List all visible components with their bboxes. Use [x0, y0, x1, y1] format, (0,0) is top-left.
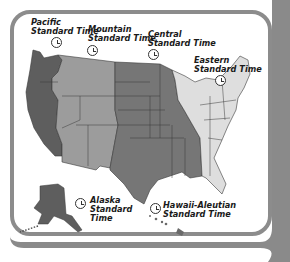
clock-icon-central [148, 49, 159, 60]
label-central: Central Standard Time [148, 30, 216, 48]
label-hawaii: Hawaii-Aleutian Standard Time [163, 201, 236, 219]
clock-icon-mountain [87, 45, 98, 56]
clock-icon-eastern [215, 75, 226, 86]
clock-icon-hawaii [150, 203, 161, 214]
label-eastern: Eastern Standard Time [194, 56, 262, 74]
clock-icon-alaska [75, 198, 86, 209]
aleutian-islands [20, 226, 38, 232]
label-alaska: Alaska Standard Time [90, 196, 132, 223]
alaska [34, 184, 82, 232]
label-mountain: Mountain Standard Time [88, 25, 156, 43]
clock-icon-pacific [51, 37, 62, 48]
zone-mountain [52, 55, 118, 170]
zone-pacific [26, 50, 62, 156]
